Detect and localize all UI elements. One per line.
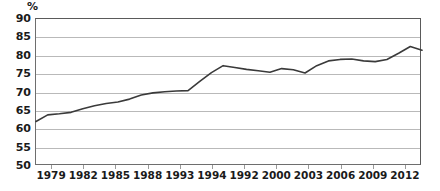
x-tick-1982: 1982 bbox=[69, 169, 98, 181]
x-tick-2003: 2003 bbox=[294, 169, 323, 181]
x-tick-2006: 2006 bbox=[326, 169, 355, 181]
x-tick-2012: 2012 bbox=[390, 169, 419, 181]
line-chart: % 908580757065605550 1979198219851988199… bbox=[0, 0, 440, 191]
x-axis-tick-labels: 1979198219851988199319941992200020032006… bbox=[0, 169, 440, 189]
y-tick-60: 60 bbox=[16, 123, 31, 134]
x-tick-mark-1979 bbox=[51, 165, 52, 169]
x-tick-mark-1993 bbox=[180, 165, 181, 169]
x-tick-mark-2000 bbox=[276, 165, 277, 169]
x-tick-mark-1992 bbox=[244, 165, 245, 169]
x-tick-mark-2006 bbox=[341, 165, 342, 169]
x-tick-1979: 1979 bbox=[36, 169, 65, 181]
y-tick-80: 80 bbox=[16, 49, 31, 60]
y-tick-90: 90 bbox=[16, 13, 31, 24]
x-tick-1992: 1992 bbox=[229, 169, 258, 181]
plot-area bbox=[35, 18, 421, 165]
x-tick-mark-2003 bbox=[308, 165, 309, 169]
x-tick-1985: 1985 bbox=[101, 169, 130, 181]
x-tick-mark-2012 bbox=[405, 165, 406, 169]
y-tick-65: 65 bbox=[16, 104, 31, 115]
x-tick-mark-2009 bbox=[373, 165, 374, 169]
y-tick-85: 85 bbox=[16, 31, 31, 42]
y-tick-75: 75 bbox=[16, 68, 31, 79]
data-series-line bbox=[36, 19, 422, 166]
x-tick-mark-1988 bbox=[148, 165, 149, 169]
y-axis-tick-labels: 908580757065605550 bbox=[0, 0, 35, 191]
x-tick-mark-1994 bbox=[212, 165, 213, 169]
x-tick-1993: 1993 bbox=[165, 169, 194, 181]
x-tick-1994: 1994 bbox=[197, 169, 226, 181]
x-tick-mark-1982 bbox=[83, 165, 84, 169]
x-tick-2009: 2009 bbox=[358, 169, 387, 181]
x-tick-1988: 1988 bbox=[133, 169, 162, 181]
x-tick-2000: 2000 bbox=[262, 169, 291, 181]
y-tick-55: 55 bbox=[16, 141, 31, 152]
x-tick-mark-1985 bbox=[115, 165, 116, 169]
y-tick-70: 70 bbox=[16, 86, 31, 97]
